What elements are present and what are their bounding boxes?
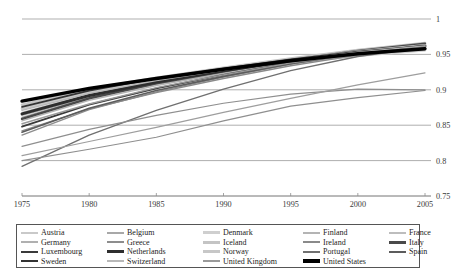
legend-entry-italy[interactable]: Italy (389, 238, 458, 247)
legend-label: Germany (41, 238, 71, 247)
legend-entry-spain[interactable]: Spain (389, 247, 458, 256)
legend-label: Sweden (41, 257, 66, 266)
legend-label: Denmark (223, 228, 253, 237)
legend-swatch (389, 232, 406, 234)
legend-entry-france[interactable]: France (389, 228, 458, 237)
legend-label: United States (323, 257, 366, 266)
legend-swatch (107, 260, 124, 262)
series-line-series-low-2 (22, 73, 425, 156)
legend-label: Italy (409, 238, 424, 247)
legend-entry-united-states[interactable]: United States (303, 257, 389, 266)
series-line-luxembourg (22, 46, 425, 127)
y-tick-label: 0.8 (436, 157, 446, 166)
x-tick-label: 2000 (350, 200, 366, 209)
legend-entry-ireland[interactable]: Ireland (303, 238, 389, 247)
legend-label: Switzerland (127, 257, 165, 266)
x-axis (22, 193, 431, 196)
legend-swatch (21, 232, 38, 234)
legend-swatch (107, 241, 124, 243)
legend-entry-luxembourg[interactable]: Luxembourg (21, 247, 107, 256)
legend-label: France (409, 228, 431, 237)
legend-entry-sweden[interactable]: Sweden (21, 257, 107, 266)
legend-label: Greece (127, 238, 150, 247)
legend-entry-united-kingdom[interactable]: United Kingdom (203, 257, 303, 266)
legend-swatch (303, 232, 320, 234)
x-tick-label: 1980 (81, 200, 97, 209)
legend-swatch (303, 259, 320, 263)
legend-entry-greece[interactable]: Greece (107, 238, 203, 247)
legend-grid: AustriaBelgiumDenmarkFinlandFranceGerman… (21, 228, 415, 266)
x-tick-label: 1990 (215, 200, 231, 209)
x-axis-tick-labels: 1975198019851990199520002005 (14, 200, 433, 209)
series-lines (22, 43, 425, 166)
legend-entry-switzerland[interactable]: Switzerland (107, 257, 203, 266)
legend-swatch (203, 241, 220, 244)
legend-label: Spain (409, 247, 427, 256)
x-tick-label: 1985 (148, 200, 164, 209)
legend-swatch (107, 250, 124, 253)
legend-swatch (203, 231, 220, 234)
plot-area: 0.750.80.850.90.951 19751980198519901995… (0, 0, 458, 216)
x-tick-label: 2005 (417, 200, 433, 209)
y-tick-label: 0.85 (436, 121, 450, 130)
legend-label: Portugal (323, 247, 350, 256)
legend-swatch (303, 251, 320, 253)
legend-label: Finland (323, 228, 347, 237)
legend-label: Netherlands (127, 247, 166, 256)
legend-entry-iceland[interactable]: Iceland (203, 238, 303, 247)
legend-entry-denmark[interactable]: Denmark (203, 228, 303, 237)
legend-swatch (107, 232, 124, 234)
legend-swatch (21, 241, 38, 243)
legend-entry-austria[interactable]: Austria (21, 228, 107, 237)
y-tick-label: 0.95 (436, 50, 450, 59)
legend-label: Austria (41, 228, 65, 237)
legend-swatch (203, 260, 220, 262)
legend-entry-germany[interactable]: Germany (21, 238, 107, 247)
y-tick-label: 1 (436, 15, 440, 24)
x-tick-label: 1975 (14, 200, 30, 209)
legend-label: Norway (223, 247, 249, 256)
legend-entry-finland[interactable]: Finland (303, 228, 389, 237)
chart-figure: 0.750.80.850.90.951 19751980198519901995… (0, 0, 458, 275)
legend-label: Ireland (323, 238, 346, 247)
y-tick-label: 0.9 (436, 86, 446, 95)
legend-swatch (203, 250, 220, 253)
legend-swatch (389, 241, 406, 244)
legend-label: Belgium (127, 228, 155, 237)
legend-entry-belgium[interactable]: Belgium (107, 228, 203, 237)
legend-entry-netherlands[interactable]: Netherlands (107, 247, 203, 256)
y-tick-label: 0.75 (436, 192, 450, 201)
legend-label: Iceland (223, 238, 247, 247)
chart-legend: AustriaBelgiumDenmarkFinlandFranceGerman… (16, 224, 420, 268)
legend-swatch (389, 251, 406, 253)
legend-label: United Kingdom (223, 257, 277, 266)
legend-label: Luxembourg (41, 247, 82, 256)
y-axis-tick-labels: 0.750.80.850.90.951 (436, 15, 450, 201)
legend-swatch (21, 260, 38, 262)
legend-entry-norway[interactable]: Norway (203, 247, 303, 256)
line-chart-svg: 0.750.80.850.90.951 19751980198519901995… (0, 0, 458, 216)
x-tick-label: 1995 (282, 200, 298, 209)
legend-entry-portugal[interactable]: Portugal (303, 247, 389, 256)
legend-swatch (303, 241, 320, 243)
legend-swatch (21, 251, 38, 253)
